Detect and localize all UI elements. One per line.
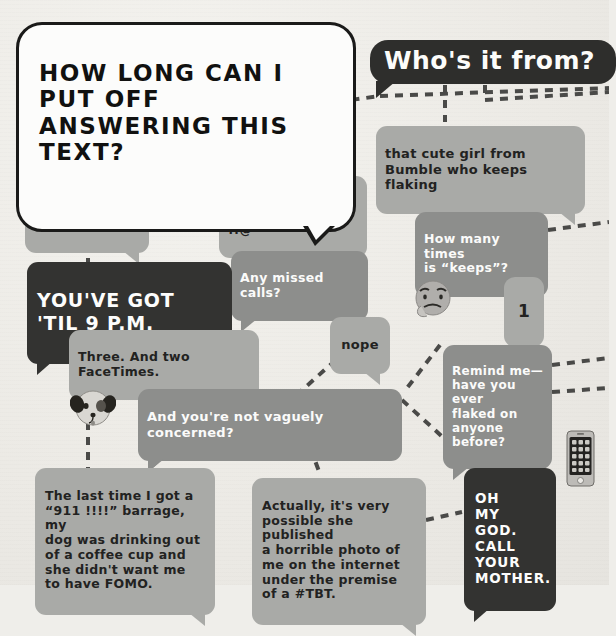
connector-line: [380, 88, 609, 96]
question-bubble-tail: [376, 81, 396, 98]
bubble-text: Remind me— have you ever flaked on anyon…: [452, 364, 543, 449]
title-bubble-tail-inner: [308, 226, 330, 240]
bubble-tail: [364, 372, 380, 385]
bubble-text: The last time I got a “911 !!!!” barrage…: [45, 488, 200, 592]
bubble-one: 1: [504, 277, 544, 347]
title-text: HOW LONG CAN I PUT OFF ANSWERING THIS TE…: [39, 60, 289, 165]
bubble-cute-girl-from-bumble: that cute girl from Bumble who keeps fla…: [376, 126, 585, 214]
connector-line: [552, 358, 609, 365]
connector-line: [404, 345, 440, 392]
question-whos-it-from-bubble: Who's it from?: [370, 40, 616, 84]
bubble-text: OH MY GOD. CALL YOUR MOTHER.: [475, 490, 551, 586]
bubble-nope: nope: [330, 317, 390, 374]
smartphone-icon: [566, 430, 595, 487]
bubble-not-vaguely-concerned: And you're not vaguely concerned?: [138, 389, 402, 461]
bubble-text: How many times is “keeps”?: [424, 231, 508, 276]
connector-line: [548, 222, 609, 230]
question-whos-it-from-text: Who's it from?: [384, 46, 595, 75]
bubble-oh-my-god-call-your-mother: OH MY GOD. CALL YOUR MOTHER.: [464, 468, 556, 611]
bubble-tail: [474, 608, 490, 622]
bubble-tail: [559, 212, 575, 225]
bubble-text: And you're not vaguely concerned?: [147, 409, 324, 439]
connector-line: [552, 388, 609, 392]
title-bubble: HOW LONG CAN I PUT OFF ANSWERING THIS TE…: [16, 22, 356, 232]
bubble-text: Actually, it's very possible she publish…: [262, 498, 400, 602]
bubble-text: Any missed calls?: [240, 270, 324, 300]
bubble-tail: [400, 623, 416, 636]
bubble-actually-horrible-photo-tbt: Actually, it's very possible she publish…: [252, 478, 426, 625]
bubble-tail: [37, 361, 53, 375]
bubble-remind-me-ever-flaked: Remind me— have you ever flaked on anyon…: [443, 345, 552, 469]
bubble-text: that cute girl from Bumble who keeps fla…: [385, 146, 527, 192]
thinking-face-icon: [411, 278, 455, 322]
dog-face-icon: [70, 386, 116, 428]
bubble-tail: [189, 613, 205, 626]
bubble-text: YOU'VE GOT 'TIL 9 P.M.: [37, 289, 174, 333]
bubble-any-missed-calls: Any missed calls?: [231, 251, 368, 321]
connector-line: [426, 512, 462, 520]
bubble-text: nope: [341, 337, 379, 352]
bubble-last-time-911-barrage: The last time I got a “911 !!!!” barrage…: [35, 468, 215, 615]
bubble-text: Three. And two FaceTimes.: [78, 349, 190, 379]
bubble-text: 1: [518, 301, 530, 321]
